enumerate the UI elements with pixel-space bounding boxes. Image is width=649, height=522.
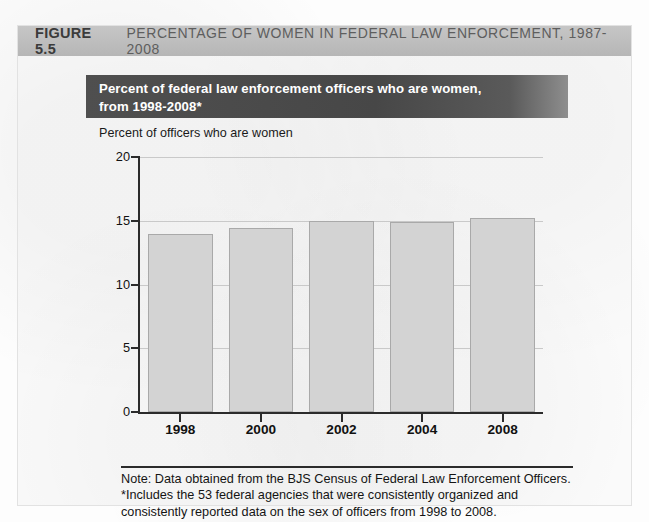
bar-2008: [470, 218, 534, 412]
footnote-line-3: consistently reported data on the sex of…: [121, 504, 591, 520]
plot-area: [138, 157, 543, 414]
y-axis-tick: [131, 156, 140, 158]
x-axis-tick: [502, 414, 504, 422]
footnote-divider: [121, 466, 573, 468]
y-axis-line: [138, 157, 140, 414]
bar-2000: [229, 228, 293, 412]
y-axis-tick-label: 15: [116, 213, 130, 228]
gridline: [140, 157, 543, 158]
x-axis-tick: [260, 414, 262, 422]
chart-title-line-1: Percent of federal law enforcement offic…: [99, 80, 568, 98]
y-axis-tick: [131, 284, 140, 286]
figure-number: FIGURE 5.5: [35, 25, 115, 57]
x-axis-tick-label-1998: 1998: [140, 422, 221, 437]
figure-container: FIGURE 5.5 PERCENTAGE OF WOMEN IN FEDERA…: [18, 26, 631, 505]
y-axis-tick: [131, 411, 140, 413]
x-axis-tick-label-2004: 2004: [382, 422, 463, 437]
y-axis-tick-label: 0: [123, 404, 130, 419]
y-axis-tick-labels: 05101520: [100, 157, 130, 414]
x-axis-tick-labels: 19982000200220042008: [138, 422, 543, 442]
bar-2002: [309, 221, 373, 412]
footnote: Note: Data obtained from the BJS Census …: [121, 471, 591, 520]
figure-page: FIGURE 5.5 PERCENTAGE OF WOMEN IN FEDERA…: [0, 0, 649, 522]
bar-1998: [148, 234, 212, 413]
bar-2004: [390, 222, 454, 412]
chart-title-line-2: from 1998-2008*: [99, 98, 568, 116]
x-axis-tick: [421, 414, 423, 422]
y-axis-tick: [131, 347, 140, 349]
y-axis-label: Percent of officers who are women: [99, 126, 293, 140]
x-axis-tick-label-2002: 2002: [301, 422, 382, 437]
figure-header-band: FIGURE 5.5 PERCENTAGE OF WOMEN IN FEDERA…: [18, 26, 631, 56]
x-axis-tick: [179, 414, 181, 422]
x-axis-tick-label-2008: 2008: [462, 422, 543, 437]
footnote-line-2: *Includes the 53 federal agencies that w…: [121, 487, 591, 503]
chart-title-band: Percent of federal law enforcement offic…: [86, 75, 568, 118]
y-axis-tick-label: 5: [123, 340, 130, 355]
x-axis-tick: [341, 414, 343, 422]
figure-caption: PERCENTAGE OF WOMEN IN FEDERAL LAW ENFOR…: [126, 25, 631, 57]
y-axis-tick-label: 10: [116, 277, 130, 292]
x-axis-tick-label-2000: 2000: [221, 422, 302, 437]
y-axis-tick-label: 20: [116, 149, 130, 164]
footnote-line-1: Note: Data obtained from the BJS Census …: [121, 471, 591, 487]
y-axis-tick: [131, 220, 140, 222]
